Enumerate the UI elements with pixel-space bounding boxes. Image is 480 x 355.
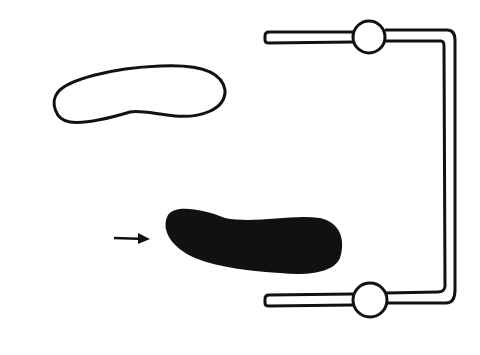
diagram-canvas: Line drawing: outlined blob, filled blac…	[0, 0, 480, 355]
arrow-icon	[114, 233, 150, 244]
valve-bottom	[353, 283, 387, 317]
valve-top	[353, 21, 385, 53]
outlined-blob	[54, 66, 225, 123]
diagram-svg	[0, 0, 480, 355]
filled-blob	[166, 209, 343, 274]
